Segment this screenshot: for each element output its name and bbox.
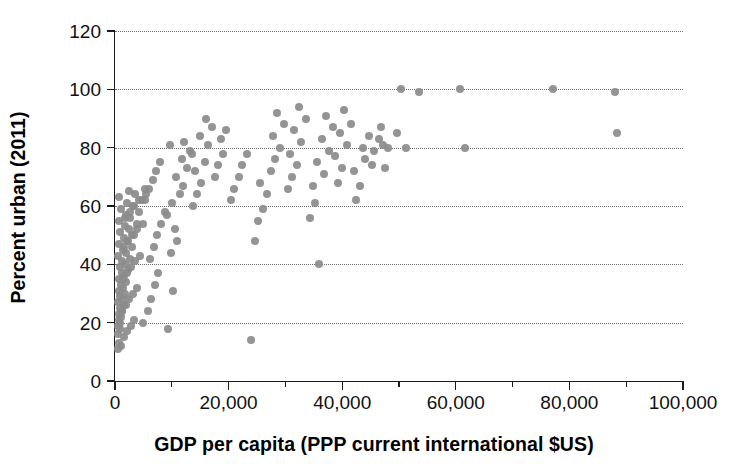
data-point [549, 85, 557, 93]
data-point [381, 164, 389, 172]
data-point [147, 295, 155, 303]
data-point [288, 173, 296, 181]
data-point [115, 193, 123, 201]
x-minor-tick-90000 [626, 381, 627, 387]
data-point [276, 144, 284, 152]
data-point [168, 199, 176, 207]
data-point [222, 126, 230, 134]
data-point [356, 182, 364, 190]
data-point [183, 164, 191, 172]
data-point [156, 158, 164, 166]
data-point [172, 173, 180, 181]
data-point [196, 132, 204, 140]
y-tick-label-80: 80 [5, 138, 101, 157]
x-minor-tick-30000 [285, 381, 286, 387]
x-minor-tick-50000 [398, 381, 399, 387]
data-point [133, 284, 141, 292]
data-point [243, 150, 251, 158]
data-point [139, 319, 147, 327]
y-tick-label-60: 60 [5, 197, 101, 216]
y-tick-label-20: 20 [5, 313, 101, 332]
data-point [251, 237, 259, 245]
data-point [295, 103, 303, 111]
data-point [238, 161, 246, 169]
data-point [384, 144, 392, 152]
x-tick-label-40000: 40,000 [313, 393, 371, 412]
data-point [377, 123, 385, 131]
x-tick-label-0: 0 [110, 393, 121, 412]
data-point [230, 185, 238, 193]
x-minor-tick-10000 [171, 381, 172, 387]
data-point [334, 179, 342, 187]
data-point [368, 161, 376, 169]
x-minor-tick-70000 [512, 381, 513, 387]
data-point [164, 325, 172, 333]
data-point [204, 141, 212, 149]
data-point [263, 190, 271, 198]
data-point [322, 112, 330, 120]
x-tick-label-80000: 80,000 [540, 393, 598, 412]
data-point [365, 132, 373, 140]
plot-area [115, 31, 683, 381]
data-point [152, 167, 160, 175]
data-point [167, 249, 175, 257]
data-point [254, 217, 262, 225]
data-point [144, 307, 152, 315]
data-point [267, 167, 275, 175]
data-point [153, 231, 161, 239]
x-tick-label-20000: 20,000 [200, 393, 258, 412]
data-point [139, 220, 147, 228]
data-point [197, 179, 205, 187]
data-point [202, 115, 210, 123]
data-point [259, 205, 267, 213]
scatter-chart-figure: Percent urban (2011) GDP per capita (PPP… [0, 0, 748, 475]
data-point [163, 211, 171, 219]
data-point [347, 120, 355, 128]
data-point [350, 167, 358, 175]
data-point [313, 158, 321, 166]
data-point [611, 88, 619, 96]
x-tick-label-60000: 60,000 [427, 393, 485, 412]
y-tick-label-100: 100 [5, 80, 101, 99]
y-tick-40 [107, 264, 115, 265]
data-point [145, 185, 153, 193]
y-tick-60 [107, 205, 115, 206]
data-point [343, 141, 351, 149]
data-point [311, 199, 319, 207]
data-point [393, 129, 401, 137]
data-point [166, 141, 174, 149]
data-point [191, 167, 199, 175]
data-point [613, 129, 621, 137]
data-point [293, 161, 301, 169]
data-point [397, 85, 405, 93]
data-point [178, 155, 186, 163]
data-point [179, 182, 187, 190]
y-tick-label-40: 40 [5, 255, 101, 274]
data-point [273, 109, 281, 117]
data-point [149, 176, 157, 184]
data-point [117, 342, 125, 350]
data-point [318, 135, 326, 143]
data-point [297, 138, 305, 146]
y-tick-label-0: 0 [5, 372, 101, 391]
data-point [271, 155, 279, 163]
data-point [176, 190, 184, 198]
data-point [309, 182, 317, 190]
data-point [219, 150, 227, 158]
data-point [154, 269, 162, 277]
x-tick-100000 [682, 381, 683, 390]
data-point [188, 150, 196, 158]
data-point [280, 120, 288, 128]
data-point [171, 225, 179, 233]
data-point [247, 336, 255, 344]
data-point [306, 214, 314, 222]
data-point [136, 252, 144, 260]
data-point [402, 144, 410, 152]
data-point [214, 161, 222, 169]
x-tick-60000 [455, 381, 456, 390]
data-point [193, 190, 201, 198]
data-point [320, 170, 328, 178]
data-point [151, 281, 159, 289]
data-point [290, 126, 298, 134]
data-point [227, 196, 235, 204]
